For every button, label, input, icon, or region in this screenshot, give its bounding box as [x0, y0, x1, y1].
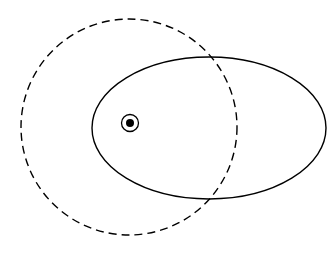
focus-point-dot: [126, 119, 134, 127]
canvas-background: [0, 0, 334, 254]
diagram-canvas: [0, 0, 334, 254]
geometry-diagram: [0, 0, 334, 254]
